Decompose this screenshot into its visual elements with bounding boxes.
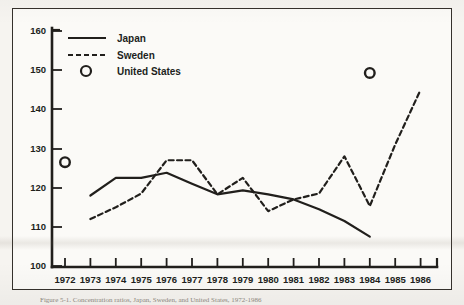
y-tick-label-110: 110	[31, 221, 46, 232]
figure-caption: Figure 5-1. Concentration ratios, Japan,…	[40, 296, 440, 304]
y-tick-label-120: 120	[30, 182, 46, 193]
y-tick-label-100: 100	[30, 260, 46, 271]
series-united-states	[60, 68, 374, 167]
y-tick-labels-group: 160 150 140 130 120 110 100	[30, 25, 46, 271]
legend-label-japan: Japan	[117, 33, 146, 44]
y-tick-label-160: 160	[30, 25, 46, 36]
x-tick-label-1973: 1973	[80, 274, 101, 285]
x-tick-label-1974: 1974	[105, 274, 127, 285]
figure-container: 160 150 140 130 120 110 100 197219731974…	[0, 0, 464, 305]
line-sweden	[90, 90, 420, 219]
x-tick-labels-group: 1972197319741975197619771978197919801981…	[54, 274, 431, 285]
legend-label-united-states: United States	[117, 66, 181, 77]
axes-group	[52, 28, 437, 267]
x-tick-label-1985: 1985	[385, 274, 407, 285]
legend-group: Japan Sweden United States	[68, 33, 181, 77]
x-tick-label-1980: 1980	[258, 274, 279, 285]
y-ticks-group	[52, 31, 62, 266]
x-tick-label-1983: 1983	[334, 274, 355, 285]
x-tick-label-1986: 1986	[410, 274, 431, 285]
x-tick-label-1976: 1976	[156, 274, 177, 285]
marker-united-states-1984	[365, 68, 375, 78]
x-tick-label-1982: 1982	[308, 274, 329, 285]
x-tick-label-1975: 1975	[131, 274, 153, 285]
x-tick-label-1979: 1979	[232, 274, 253, 285]
x-tick-label-1977: 1977	[181, 274, 202, 285]
series-sweden	[90, 90, 420, 219]
legend-label-sweden: Sweden	[117, 50, 155, 61]
x-tick-label-1978: 1978	[207, 274, 228, 285]
y-tick-label-140: 140	[30, 103, 46, 114]
x-tick-label-1984: 1984	[359, 274, 381, 285]
x-tick-label-1972: 1972	[54, 274, 75, 285]
y-tick-label-130: 130	[30, 143, 46, 154]
y-tick-label-150: 150	[30, 64, 46, 75]
x-tick-label-1981: 1981	[283, 274, 305, 285]
legend-marker-united-states	[81, 66, 91, 76]
chart-canvas: 160 150 140 130 120 110 100 197219731974…	[0, 0, 464, 305]
marker-united-states-1972	[60, 157, 70, 167]
x-ticks-group	[65, 258, 421, 267]
